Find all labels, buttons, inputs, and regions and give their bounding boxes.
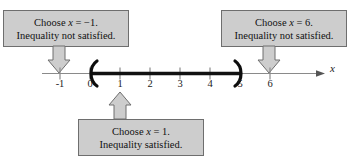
tick-label: 0 [78,78,102,89]
tick-label: 2 [138,78,162,89]
tick-label: 4 [198,78,222,89]
tick-label: 5 [228,78,252,89]
tick-label: 1 [108,78,132,89]
axis-variable-label: x [330,62,335,74]
tick-label: -1 [48,78,72,89]
tick-label: 3 [168,78,192,89]
tick-label: 6 [258,78,282,89]
axis-arrowhead-right-icon [316,70,325,76]
number-line-figure: Choose x = −1. Inequality not satisfied.… [0,0,350,161]
